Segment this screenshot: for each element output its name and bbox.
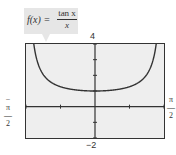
ymin-label: −2 [86,140,96,150]
ymax-label: 4 [90,31,95,41]
xmax-label: π—2 [166,96,176,120]
callout-tail [42,34,50,42]
function-fraction: tan x x [57,8,77,31]
fraction-numerator: tan x [57,8,77,20]
fraction-denominator: x [57,20,77,31]
graph-screen [25,43,165,139]
xmin-label: −π—2 [3,96,13,128]
plot-area [26,44,164,138]
function-curve [33,44,164,138]
function-lhs: f(x) = [27,14,50,25]
